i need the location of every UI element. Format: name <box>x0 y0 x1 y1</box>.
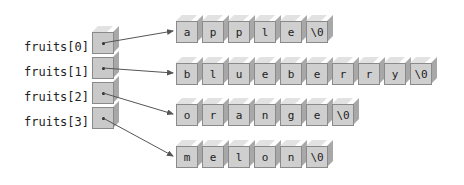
pointer-arrows <box>0 0 464 185</box>
